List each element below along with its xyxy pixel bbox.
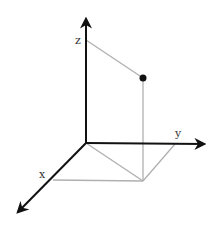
coordinate-diagram: z y x: [0, 0, 218, 226]
x-axis: [18, 143, 86, 212]
projection-lines: [53, 40, 175, 181]
x-axis-label: x: [39, 168, 46, 181]
projection-origin-to-foot: [86, 143, 143, 181]
y-axis-label: y: [174, 127, 182, 140]
projection-y-to-foot: [143, 144, 175, 181]
z-axis-label: z: [75, 34, 81, 47]
axes: [18, 19, 204, 212]
projection-x-to-foot: [53, 180, 143, 181]
projection-z-to-point: [86, 40, 143, 78]
y-axis: [86, 143, 204, 144]
point-marker: [140, 75, 147, 82]
